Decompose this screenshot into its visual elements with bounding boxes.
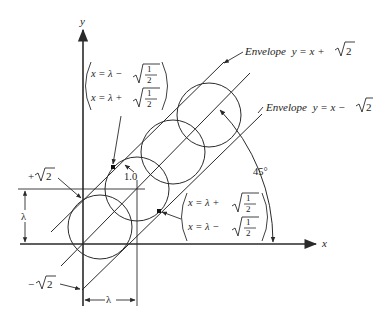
upper-tangent-point	[111, 165, 115, 169]
svg-text:Envelope y = x +: Envelope y = x +	[244, 45, 325, 57]
left-paren	[182, 193, 188, 241]
minus-root2-label: − 2	[28, 276, 56, 290]
lower-envelope-root: 2	[366, 101, 372, 113]
circle-1	[68, 195, 132, 259]
minus-root2-value: 2	[47, 278, 53, 290]
right-paren	[162, 62, 168, 110]
plus-sign: +	[28, 170, 34, 182]
plus-root2-value: 2	[46, 170, 52, 182]
lower-frac2-den: 2	[246, 228, 251, 238]
center-line	[61, 73, 250, 266]
upper-tangent-line1: x = λ −	[90, 68, 122, 79]
upper-envelope-equation: y = x +	[291, 45, 325, 57]
upper-tangent-leader	[113, 116, 121, 164]
sqrt-icon	[335, 42, 355, 56]
upper-envelope-label: Envelope y = x + 2	[244, 42, 355, 57]
lower-tangent-line2: x = λ −	[187, 221, 219, 232]
lower-frac1-den: 2	[246, 204, 251, 214]
lower-envelope-label: Envelope y = x − 2	[265, 98, 373, 113]
minus-root2-leader	[60, 284, 80, 289]
sqrt-icon	[35, 168, 55, 181]
radius-label: 1.0	[124, 171, 137, 182]
plus-root2-label: + 2	[28, 168, 55, 182]
upper-frac2-den: 2	[147, 99, 152, 109]
upper-envelope-prefix: Envelope	[244, 45, 286, 57]
lower-frac1-num: 1	[246, 193, 251, 203]
lower-frac2-num: 1	[246, 217, 251, 227]
lower-tangent-annotation: x = λ + 1 2 x = λ − 1 2	[182, 193, 268, 241]
angle-label: 45°	[253, 166, 268, 177]
upper-frac2-num: 1	[147, 88, 152, 98]
lower-tangent-line1: x = λ +	[187, 197, 219, 208]
lower-envelope-leader	[258, 107, 263, 113]
right-paren	[262, 193, 268, 241]
minus-sign: −	[28, 278, 34, 290]
y-axis-label: y	[79, 15, 85, 27]
plus-root2-leader	[58, 178, 81, 198]
sqrt-icon	[36, 276, 56, 289]
envelope-diagram: y x Envelope y = x + 2 Envelope y = x − …	[0, 0, 373, 318]
lower-envelope-line	[82, 114, 262, 290]
lower-envelope-equation: y = x −	[312, 101, 346, 113]
lower-tangent-point	[157, 209, 161, 213]
svg-text:Envelope y = x −: Envelope y = x −	[265, 101, 346, 113]
lower-envelope-prefix: Envelope	[265, 101, 307, 113]
upper-frac1-den: 2	[147, 75, 152, 85]
x-axis-label: x	[321, 237, 327, 249]
lower-tangent-leader	[162, 212, 181, 219]
upper-envelope-leader	[224, 52, 243, 63]
upper-tangent-line2: x = λ +	[90, 92, 122, 103]
upper-tangent-annotation: x = λ − 1 2 x = λ + 1 2	[86, 62, 168, 110]
upper-frac1-num: 1	[147, 64, 152, 74]
upper-envelope-root: 2	[346, 45, 352, 57]
